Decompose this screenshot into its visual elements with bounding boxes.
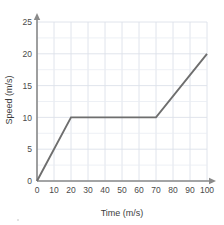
y-tick-label: 15: [23, 81, 33, 91]
grid-layer: [37, 22, 207, 181]
speed-time-chart: 01020304050607080901000510152025 Time (m…: [0, 0, 224, 225]
x-tick-label: 30: [83, 185, 93, 195]
y-tick-label: 10: [23, 113, 33, 123]
tick-labels-layer: 01020304050607080901000510152025: [23, 17, 215, 194]
y-tick-label: 25: [23, 17, 33, 27]
x-tick-label: 60: [134, 185, 144, 195]
y-tick-label: 5: [27, 144, 32, 154]
axes-layer: [34, 13, 216, 184]
x-tick-label: 0: [35, 185, 40, 195]
y-axis-arrowhead: [34, 13, 40, 20]
y-axis-title: Speed (m/s): [4, 75, 14, 124]
x-axis-title: Time (m/s): [101, 208, 144, 218]
x-tick-label: 70: [151, 185, 161, 195]
x-tick-label: 20: [66, 185, 76, 195]
scan-artifact-speck: [17, 219, 19, 221]
y-tick-label: 20: [23, 49, 33, 59]
x-tick-label: 80: [168, 185, 178, 195]
y-tick-label: 0: [27, 176, 32, 186]
x-tick-label: 90: [185, 185, 195, 195]
x-tick-label: 50: [117, 185, 127, 195]
x-tick-label: 10: [49, 185, 59, 195]
x-tick-label: 100: [200, 185, 214, 195]
x-axis-arrowhead: [209, 178, 216, 184]
chart-canvas: 01020304050607080901000510152025 Time (m…: [0, 0, 224, 225]
x-tick-label: 40: [100, 185, 110, 195]
